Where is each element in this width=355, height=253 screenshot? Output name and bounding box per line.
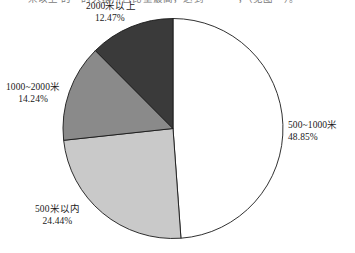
slice-label-500-within-value: 24.44% <box>35 216 80 228</box>
slice-label-1000-2000: 1000~2000米 14.24% <box>6 82 60 105</box>
slice-label-500-1000-value: 48.85% <box>288 132 337 144</box>
slice-label-2000-above: 2000米以上 12.47% <box>86 1 136 24</box>
pie-slice-2 <box>64 129 181 239</box>
slice-label-500-1000-category: 500~1000米 <box>288 120 337 132</box>
page-root: 米以上 的的人群所占比重最高，达到，（见图）。 2000米以上 12.47% 1… <box>0 0 355 253</box>
pie-slice-1 <box>173 19 283 239</box>
pie-chart: 2000米以上 12.47% 1000~2000米 14.24% 500米以内 … <box>0 0 355 253</box>
slice-label-1000-2000-category: 1000~2000米 <box>6 82 60 94</box>
slice-label-500-1000: 500~1000米 48.85% <box>288 120 337 143</box>
slice-label-500-within: 500米以内 24.44% <box>35 204 80 227</box>
slice-label-2000-above-category: 2000米以上 <box>86 1 136 13</box>
slice-label-1000-2000-value: 14.24% <box>6 94 60 106</box>
pie-slice-group <box>63 19 283 239</box>
slice-label-500-within-category: 500米以内 <box>35 204 80 216</box>
slice-label-2000-above-value: 12.47% <box>84 13 136 25</box>
